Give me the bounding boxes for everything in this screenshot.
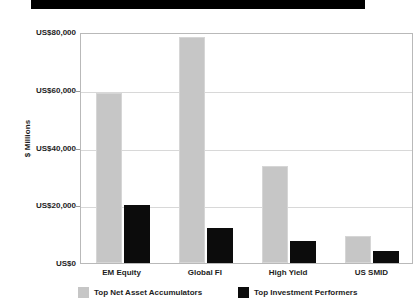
plot-area bbox=[80, 33, 413, 264]
legend-item-1: Top Investment Performers bbox=[238, 287, 357, 298]
bar-us-smid-series-1 bbox=[373, 251, 399, 263]
bar-em-equity-series-0 bbox=[96, 93, 122, 263]
y-axis-tick-label: US$20,000 bbox=[0, 201, 76, 210]
bar-chart: $ Millions US$0US$20,000US$40,000US$60,0… bbox=[0, 0, 420, 308]
bar-high-yield-series-1 bbox=[290, 241, 316, 263]
gridline bbox=[81, 150, 412, 151]
legend-item-0: Top Net Asset Accumulators bbox=[78, 287, 202, 298]
y-axis-tick-label: US$0 bbox=[0, 259, 76, 268]
bar-global-fi-series-1 bbox=[207, 228, 233, 263]
gridline bbox=[81, 92, 412, 93]
x-axis-label-us-smid: US SMID bbox=[321, 268, 420, 277]
y-axis-tick-label: US$40,000 bbox=[0, 144, 76, 153]
bar-us-smid-series-0 bbox=[345, 236, 371, 263]
legend-label: Top Investment Performers bbox=[254, 287, 357, 298]
bar-high-yield-series-0 bbox=[262, 166, 288, 263]
y-axis-title: $ Millions bbox=[23, 94, 32, 184]
legend-label: Top Net Asset Accumulators bbox=[94, 287, 202, 298]
y-axis-tick-label: US$60,000 bbox=[0, 86, 76, 95]
chart-legend: Top Net Asset AccumulatorsTop Investment… bbox=[78, 287, 398, 301]
bar-em-equity-series-1 bbox=[124, 205, 150, 263]
legend-swatch-icon bbox=[238, 287, 249, 298]
bar-global-fi-series-0 bbox=[179, 37, 205, 263]
y-axis-tick-label: US$80,000 bbox=[0, 28, 76, 37]
redacted-title-bar bbox=[31, 0, 365, 9]
legend-swatch-icon bbox=[78, 287, 89, 298]
